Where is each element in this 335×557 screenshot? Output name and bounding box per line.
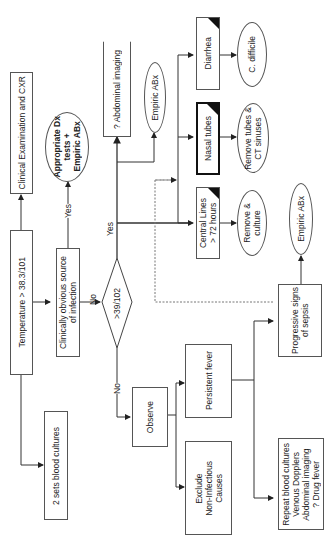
corner-marker-icon: [208, 18, 219, 29]
remove-tubes-ellipse: Remove tubes & CT sinuses: [237, 103, 269, 173]
empiric-abx-top-label: Empiric ABx: [150, 75, 160, 121]
central-lines-label: Central Lines > 72 hours: [198, 198, 218, 248]
observe-label: Observe: [145, 401, 155, 433]
blood-cultures-label: 2 sets blood cultures: [51, 427, 61, 505]
edge-label-no-39: No: [112, 383, 122, 394]
persistent-fever-label: Persistent fever: [204, 351, 214, 410]
corner-marker-icon: [207, 104, 218, 115]
c-difficile-label: C. difficile: [247, 36, 257, 73]
exclude-noninfectious-box: Exclude Non-Infectious Causes: [185, 441, 232, 535]
empiric-abx-right-ellipse: Empiric ABx: [289, 183, 313, 255]
progressive-sepsis-box: Progressive signs of sepsis: [278, 284, 322, 357]
edge-label-yes-source: Yes: [63, 204, 73, 218]
central-lines-box: Central Lines > 72 hours: [196, 187, 220, 259]
appropriate-dx-ellipse: Appropriate Dx tests + Empiric ABx: [45, 112, 89, 182]
remove-tubes-label: Remove tubes & CT sinuses: [243, 107, 263, 170]
decision-39-label: >39/102: [112, 288, 122, 319]
persistent-fever-box: Persistent fever: [185, 344, 232, 418]
temperature-label: Temperature > 38.3/101: [17, 257, 27, 348]
appropriate-dx-label: Appropriate Dx tests + Empiric ABx: [52, 116, 82, 177]
temperature-box: Temperature > 38.3/101: [10, 230, 33, 375]
abdominal-imaging-box: ? Abdominal imaging: [103, 42, 131, 137]
progressive-sepsis-label: Progressive signs of sepsis: [290, 287, 310, 354]
decision-39-container: >39/102: [102, 258, 132, 348]
clinical-exam-box: Clinical Examination and CXR: [10, 72, 33, 194]
empiric-abx-right-label: Empiric ABx: [296, 196, 306, 242]
diarrhea-box: Diarrhea: [196, 17, 220, 90]
edge-label-yes-39: Yes: [105, 222, 115, 236]
observe-box: Observe: [132, 387, 168, 447]
nasal-tubes-label: Nasal tubes: [203, 116, 213, 161]
obvious-source-box: Clinically obvious source of infection: [56, 248, 80, 357]
repeat-workup-box: Repeat blood cultures Venous Dopplers Ab…: [278, 438, 324, 530]
edge-label-no-source: No: [88, 294, 98, 305]
abdominal-imaging-label: ? Abdominal imaging: [112, 50, 122, 129]
exclude-noninfectious-label: Exclude Non-Infectious Causes: [194, 461, 224, 516]
blood-cultures-box: 2 sets blood cultures: [44, 411, 68, 520]
repeat-workup-label: Repeat blood cultures Venous Dopplers Ab…: [281, 443, 321, 526]
remove-culture-ellipse: Remove & culture: [237, 190, 267, 256]
clinical-exam-label: Clinical Examination and CXR: [17, 76, 27, 189]
empiric-abx-top-ellipse: Empiric ABx: [144, 62, 166, 133]
remove-culture-label: Remove & culture: [242, 203, 262, 243]
diarrhea-label: Diarrhea: [203, 37, 213, 70]
obvious-source-label: Clinically obvious source of infection: [58, 256, 78, 349]
nasal-tubes-box: Nasal tubes: [196, 102, 220, 175]
c-difficile-ellipse: C. difficile: [237, 22, 267, 87]
